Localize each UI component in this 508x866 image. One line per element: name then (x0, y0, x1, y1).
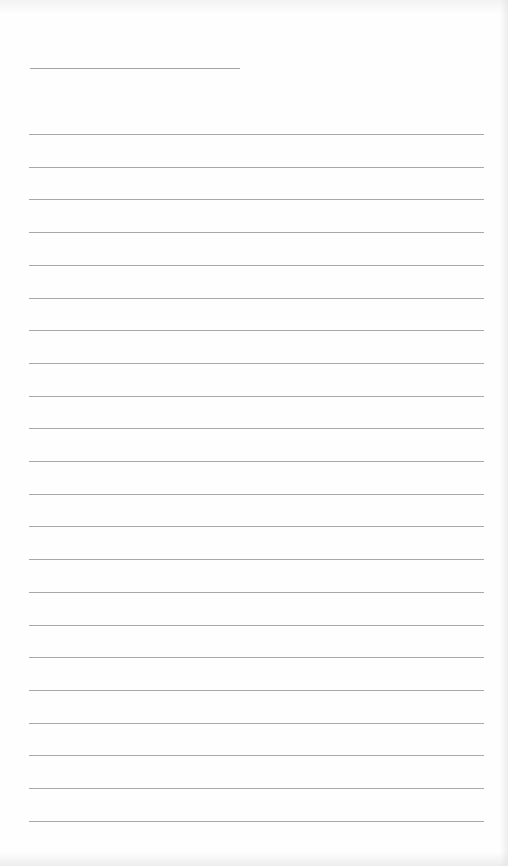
ruled-line (29, 592, 484, 593)
ruled-line (29, 494, 484, 495)
lined-paper-page (0, 0, 508, 866)
ruled-line (29, 788, 484, 789)
ruled-line (29, 363, 484, 364)
ruled-line (29, 199, 484, 200)
page-edge-shadow-top (0, 0, 508, 14)
ruled-line (29, 167, 484, 168)
ruled-line (29, 690, 484, 691)
ruled-line (29, 330, 484, 331)
ruled-line (29, 298, 484, 299)
page-edge-shadow-bottom (0, 852, 508, 866)
ruled-line (29, 428, 484, 429)
ruled-line (29, 265, 484, 266)
page-edge-shadow-right (500, 0, 508, 866)
title-line (30, 68, 240, 69)
ruled-line (29, 526, 484, 527)
ruled-line (29, 755, 484, 756)
ruled-line (29, 396, 484, 397)
ruled-line (29, 657, 484, 658)
ruled-line (29, 559, 484, 560)
ruled-line (29, 134, 484, 135)
ruled-line (29, 461, 484, 462)
ruled-line (29, 232, 484, 233)
ruled-line (29, 625, 484, 626)
ruled-line (29, 821, 484, 822)
ruled-line (29, 723, 484, 724)
